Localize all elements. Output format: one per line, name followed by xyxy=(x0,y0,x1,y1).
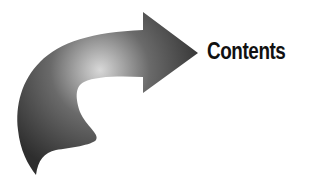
contents-heading: Contents xyxy=(207,40,285,63)
curved-arrow-icon xyxy=(0,0,328,187)
arrow-shape xyxy=(17,12,198,175)
